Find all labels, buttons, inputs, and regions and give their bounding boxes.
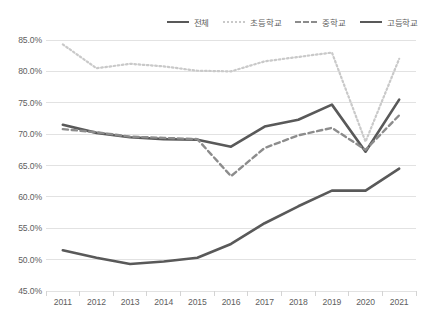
- x-axis-label: 2015: [188, 297, 207, 307]
- x-axis-labels: 2011201220132014201520162017201820192020…: [0, 0, 424, 330]
- x-axis-label: 2011: [54, 297, 72, 307]
- x-axis-label: 2013: [121, 297, 140, 307]
- x-axis-label: 2021: [390, 297, 409, 307]
- x-axis-label: 2018: [289, 297, 308, 307]
- plot-area: 85.0%80.0%75.0%70.0%65.0%60.0%55.0%50.0%…: [0, 0, 424, 330]
- x-axis-label: 2014: [154, 297, 173, 307]
- line-chart: 전체 초등학교 중학교 고등학교 85.0%80.0%75.0%70.0%65.…: [0, 0, 424, 330]
- x-axis-label: 2012: [87, 297, 106, 307]
- x-axis-label: 2020: [356, 297, 375, 307]
- x-axis-label: 2017: [255, 297, 274, 307]
- x-axis-label: 2016: [222, 297, 241, 307]
- x-axis-label: 2019: [323, 297, 342, 307]
